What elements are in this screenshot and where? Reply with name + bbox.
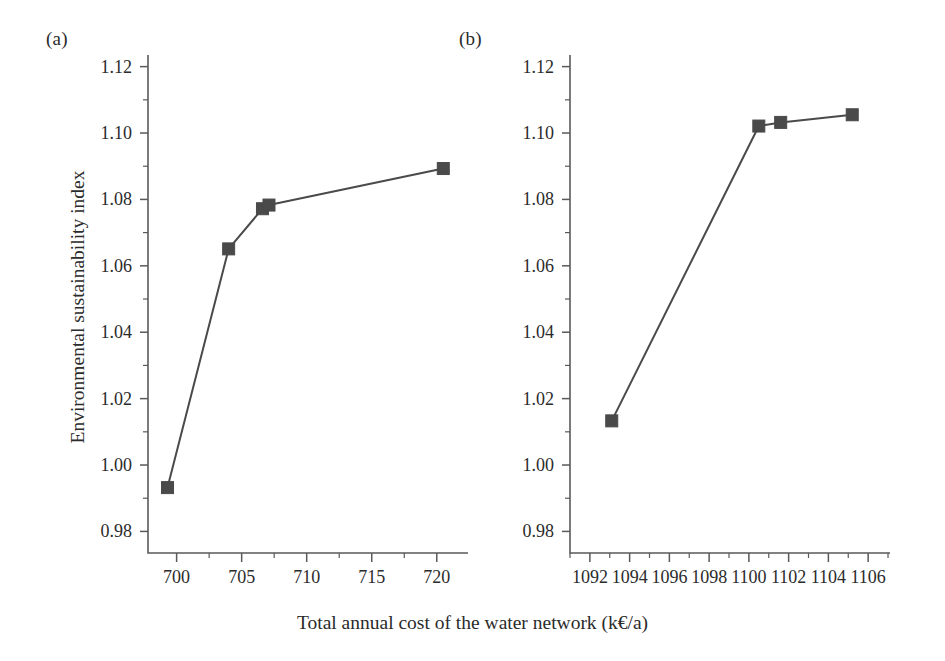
figure-root: (a) (b) Environmental sustainability ind… [0,0,945,661]
x-tick-label: 700 [163,567,190,588]
x-tick-label: 1100 [731,567,766,588]
y-tick-label: 1.04 [492,322,554,343]
x-tick-label: 1096 [651,567,687,588]
y-tick-label: 1.04 [70,322,132,343]
y-tick-label: 1.12 [492,56,554,77]
x-tick-label: 1098 [691,567,727,588]
y-tick-label: 1.02 [492,388,554,409]
x-tick-label: 720 [423,567,450,588]
y-tick-label: 1.08 [492,189,554,210]
y-tick-label: 0.98 [492,521,554,542]
x-tick-label: 1094 [612,567,648,588]
y-tick-label: 1.02 [70,388,132,409]
y-tick-label: 1.06 [492,255,554,276]
y-tick-label: 1.12 [70,56,132,77]
y-tick-label: 1.00 [492,455,554,476]
y-tick-label: 1.10 [70,123,132,144]
y-tick-label: 0.98 [70,521,132,542]
panel-a-label: (a) [46,28,68,50]
x-tick-label: 1106 [850,567,885,588]
x-tick-label: 1104 [811,567,846,588]
panel-b-label: (b) [459,28,482,50]
y-tick-label: 1.00 [70,455,132,476]
x-axis-label: Total annual cost of the water network (… [0,612,945,634]
x-tick-label: 715 [358,567,385,588]
x-tick-label: 1102 [771,567,806,588]
x-tick-label: 710 [293,567,320,588]
y-tick-label: 1.06 [70,255,132,276]
y-tick-label: 1.10 [492,123,554,144]
y-tick-label: 1.08 [70,189,132,210]
x-tick-label: 705 [228,567,255,588]
x-tick-label: 1092 [572,567,608,588]
